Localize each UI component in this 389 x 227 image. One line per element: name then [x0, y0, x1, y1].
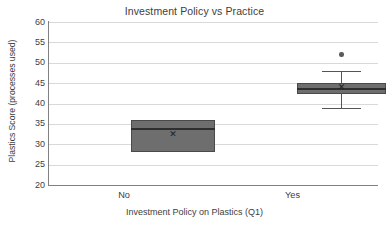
x-tick-label: Yes: [253, 190, 333, 200]
y-tick-label: 40: [5, 99, 45, 108]
y-axis-line: [48, 21, 49, 186]
lower-whisker-line: [341, 94, 342, 107]
y-tick-label: 60: [5, 18, 45, 27]
gridline: [49, 22, 378, 23]
y-tick-label: 50: [5, 58, 45, 67]
lower-whisker-cap: [322, 108, 361, 109]
y-tick-label: 25: [5, 160, 45, 169]
upper-whisker-cap: [322, 71, 361, 72]
x-tick-label: No: [84, 190, 164, 200]
gridline: [49, 42, 378, 43]
y-tick-label: 55: [5, 38, 45, 47]
gridline: [49, 104, 378, 105]
y-tick-label: 35: [5, 119, 45, 128]
chart-title: Investment Policy vs Practice: [0, 5, 389, 17]
y-tick-label: 30: [5, 140, 45, 149]
x-axis-label: Investment Policy on Plastics (Q1): [0, 207, 389, 217]
mean-marker-no: ✕: [169, 130, 178, 139]
plot-area: ✕✕: [49, 22, 378, 185]
y-axis-tick-labels: 605550454035302520: [0, 0, 45, 227]
y-tick-label: 45: [5, 79, 45, 88]
box-plot-figure: Investment Policy vs Practice Plastics S…: [0, 0, 389, 227]
gridline: [49, 63, 378, 64]
outlier-point: [339, 52, 343, 56]
x-axis-line: [48, 185, 378, 186]
gridline: [49, 165, 378, 166]
mean-marker-yes: ✕: [337, 83, 346, 92]
y-tick-label: 20: [5, 181, 45, 190]
